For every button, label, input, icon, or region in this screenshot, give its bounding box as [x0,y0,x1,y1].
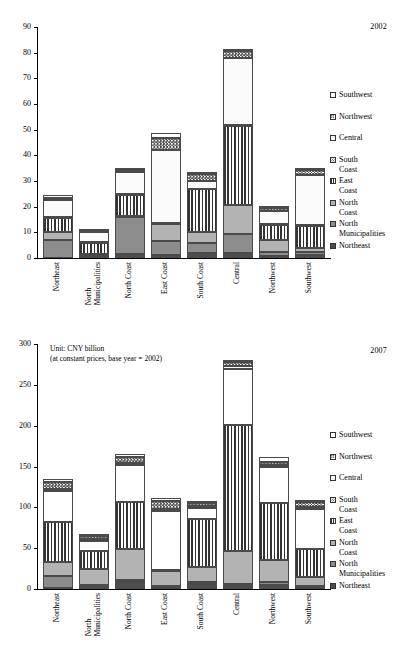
bar-segment-north-coast-north-municipalities[interactable] [115,217,145,254]
bar-segment-northwest-northwest[interactable] [259,208,289,211]
bar-segment-east-coast-south-coast[interactable] [151,511,181,569]
bar-segment-northwest-northwest[interactable] [259,462,289,465]
bar-segment-central-northeast[interactable] [223,586,253,589]
bar-segment-north-coast-southwest[interactable] [115,168,145,170]
legend-item-northwest[interactable]: Northwest [330,112,372,122]
bar-segment-east-coast-central[interactable] [151,509,181,512]
bar-segment-south-coast-central[interactable] [187,506,217,508]
bar-segment-northwest-southwest[interactable] [259,457,289,462]
bar-east-coast[interactable] [151,27,181,258]
bar-segment-northwest-south-coast[interactable] [259,467,289,503]
legend-item-north-municipalities[interactable]: North Municipalities [330,559,385,578]
bar-segment-northwest-north-municipalities[interactable] [259,252,289,256]
bar-segment-northeast-central[interactable] [43,200,73,217]
legend-item-northwest[interactable]: Northwest [330,452,372,462]
bar-segment-southwest-central[interactable] [295,175,325,225]
bar-segment-central-north-coast[interactable] [223,551,253,583]
bar-segment-central-north-coast[interactable] [223,205,253,234]
bar-segment-east-coast-southwest[interactable] [151,133,181,138]
bar-segment-north-municipalities-east-coast[interactable] [79,551,109,569]
bar-segment-northeast-central[interactable] [43,489,73,491]
bar-segment-northeast-north-coast[interactable] [43,562,73,576]
bar-segment-south-coast-northeast[interactable] [187,584,217,589]
bar-segment-south-coast-southwest[interactable] [187,501,217,503]
bar-segment-northeast-northwest[interactable] [43,198,73,200]
bar-segment-southwest-east-coast[interactable] [295,549,325,578]
bar-segment-central-north-municipalities[interactable] [223,584,253,586]
bar-segment-northeast-north-coast[interactable] [43,232,73,240]
bar-segment-southwest-east-coast[interactable] [295,226,325,248]
bar-segment-east-coast-north-coast[interactable] [151,571,181,586]
bar-segment-north-coast-central[interactable] [115,463,145,465]
legend-item-east-coast[interactable]: East Coast [330,176,357,195]
legend-item-northeast[interactable]: Northeast [330,241,370,251]
bar-segment-southwest-south-coast[interactable] [295,509,325,549]
bar-segment-north-coast-central[interactable] [115,172,145,195]
bar-segment-north-coast-east-coast[interactable] [115,502,145,549]
legend-item-south-coast[interactable]: South Coast [330,495,358,514]
bar-segment-northeast-north-municipalities[interactable] [43,240,73,257]
bar-segment-northeast-east-coast[interactable] [43,522,73,562]
bar-segment-northwest-central[interactable] [259,465,289,467]
bar-segment-south-coast-east-coast[interactable] [187,189,217,232]
bar-northeast[interactable] [43,27,73,258]
bar-north-municipalities[interactable] [79,27,109,258]
bar-segment-central-east-coast[interactable] [223,126,253,206]
bar-segment-east-coast-central[interactable] [151,150,181,222]
bar-segment-north-coast-south-coast[interactable] [115,465,145,502]
bar-segment-southwest-north-municipalities[interactable] [295,252,325,255]
bar-segment-central-northwest[interactable] [223,362,253,366]
bar-segment-northwest-northeast[interactable] [259,256,289,258]
bar-southwest[interactable] [295,344,325,589]
bar-segment-north-municipalities-south-coast[interactable] [79,541,109,551]
bar-segment-central-south-coast[interactable] [223,369,253,425]
bar-segment-south-coast-central[interactable] [187,181,217,189]
legend-item-south-coast[interactable]: South Coast [330,155,358,174]
bar-segment-southwest-southwest[interactable] [295,500,325,502]
legend-item-southwest[interactable]: Southwest [330,430,372,440]
bar-segment-central-north-municipalities[interactable] [223,234,253,252]
bar-segment-north-municipalities-north-coast[interactable] [79,569,109,585]
bar-central[interactable] [223,344,253,589]
bar-segment-central-east-coast[interactable] [223,425,253,552]
bar-north-coast[interactable] [115,27,145,258]
bar-segment-south-coast-northwest[interactable] [187,174,217,181]
bar-segment-north-coast-northeast[interactable] [115,254,145,258]
bar-segment-north-coast-northwest[interactable] [115,457,145,463]
bar-segment-central-southwest[interactable] [223,360,253,362]
bar-segment-northwest-north-municipalities[interactable] [259,582,289,584]
legend-item-northeast[interactable]: Northeast [330,581,370,591]
legend-item-central[interactable]: Central [330,473,363,483]
bar-segment-north-municipalities-southwest[interactable] [79,534,109,536]
bar-segment-northeast-north-municipalities[interactable] [43,576,73,589]
bar-segment-south-coast-northwest[interactable] [187,503,217,506]
bar-segment-central-central[interactable] [223,366,253,368]
bar-segment-northwest-east-coast[interactable] [259,503,289,561]
bar-segment-north-municipalities-northwest[interactable] [79,536,109,539]
bar-segment-east-coast-southwest[interactable] [151,498,181,501]
bar-segment-east-coast-northeast[interactable] [151,255,181,258]
bar-segment-southwest-northwest[interactable] [295,170,325,175]
bar-segment-northwest-north-coast[interactable] [259,240,289,252]
legend-item-north-municipalities[interactable]: North Municipalities [330,219,385,238]
bar-segment-north-municipalities-central[interactable] [79,232,109,243]
bar-segment-north-coast-northeast[interactable] [115,582,145,589]
bar-segment-northeast-northwest[interactable] [43,482,73,489]
bar-segment-north-coast-east-coast[interactable] [115,195,145,215]
bar-segment-south-coast-east-coast[interactable] [187,519,217,567]
bar-segment-east-coast-north-municipalities[interactable] [151,241,181,255]
bar-segment-south-coast-northeast[interactable] [187,253,217,258]
bar-central[interactable] [223,27,253,258]
bar-segment-southwest-north-coast[interactable] [295,577,325,586]
bar-southwest[interactable] [295,27,325,258]
bar-segment-central-central[interactable] [223,58,253,125]
bar-segment-northwest-north-coast[interactable] [259,560,289,582]
bar-segment-southwest-central[interactable] [295,507,325,509]
bar-segment-central-southwest[interactable] [223,49,253,51]
bar-segment-northeast-southwest[interactable] [43,195,73,197]
bar-segment-east-coast-northeast[interactable] [151,587,181,589]
bar-segment-central-northwest[interactable] [223,51,253,58]
bar-segment-southwest-northeast[interactable] [295,255,325,258]
bar-segment-south-coast-north-municipalities[interactable] [187,243,217,253]
legend-item-north-coast[interactable]: North Coast [330,538,358,557]
